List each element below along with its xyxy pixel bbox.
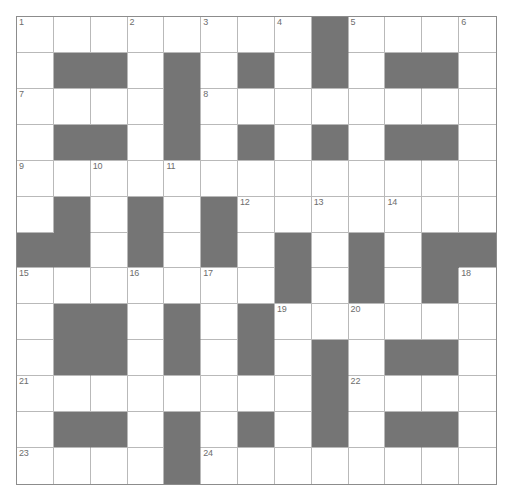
crossword-cell[interactable] [385, 233, 422, 269]
crossword-cell[interactable] [422, 197, 459, 233]
crossword-cell[interactable] [128, 125, 165, 161]
crossword-cell[interactable] [128, 376, 165, 412]
crossword-cell[interactable]: 2 [128, 17, 165, 53]
crossword-cell[interactable] [54, 376, 91, 412]
crossword-cell[interactable] [91, 376, 128, 412]
crossword-cell[interactable] [17, 304, 54, 340]
crossword-cell[interactable]: 15 [17, 268, 54, 304]
crossword-cell[interactable]: 12 [238, 197, 275, 233]
crossword-cell[interactable]: 4 [275, 17, 312, 53]
crossword-cell[interactable] [238, 89, 275, 125]
crossword-cell[interactable] [385, 161, 422, 197]
crossword-cell[interactable] [17, 125, 54, 161]
crossword-cell[interactable] [128, 53, 165, 89]
crossword-cell[interactable] [201, 53, 238, 89]
crossword-cell[interactable] [385, 89, 422, 125]
crossword-cell[interactable] [422, 89, 459, 125]
crossword-cell[interactable] [17, 412, 54, 448]
crossword-cell[interactable] [201, 125, 238, 161]
crossword-cell[interactable] [54, 448, 91, 484]
crossword-cell[interactable] [422, 304, 459, 340]
crossword-grid[interactable]: 123456789101112131415161718192021222324 [16, 16, 497, 485]
crossword-cell[interactable]: 20 [349, 304, 386, 340]
crossword-cell[interactable] [422, 376, 459, 412]
crossword-cell[interactable] [128, 448, 165, 484]
crossword-cell[interactable] [164, 268, 201, 304]
crossword-cell[interactable] [312, 304, 349, 340]
crossword-cell[interactable]: 23 [17, 448, 54, 484]
crossword-cell[interactable] [164, 233, 201, 269]
crossword-cell[interactable]: 13 [312, 197, 349, 233]
crossword-cell[interactable] [275, 89, 312, 125]
crossword-cell[interactable] [238, 376, 275, 412]
crossword-cell[interactable] [91, 268, 128, 304]
crossword-cell[interactable]: 24 [201, 448, 238, 484]
crossword-cell[interactable] [459, 412, 496, 448]
crossword-cell[interactable] [201, 376, 238, 412]
crossword-cell[interactable] [459, 376, 496, 412]
crossword-cell[interactable] [459, 53, 496, 89]
crossword-cell[interactable] [91, 17, 128, 53]
crossword-cell[interactable] [275, 197, 312, 233]
crossword-cell[interactable] [312, 268, 349, 304]
crossword-cell[interactable] [422, 161, 459, 197]
crossword-cell[interactable] [54, 89, 91, 125]
crossword-cell[interactable] [164, 17, 201, 53]
crossword-cell[interactable] [54, 268, 91, 304]
crossword-cell[interactable] [275, 412, 312, 448]
crossword-cell[interactable] [459, 197, 496, 233]
crossword-cell[interactable] [128, 89, 165, 125]
crossword-cell[interactable] [459, 161, 496, 197]
crossword-cell[interactable]: 19 [275, 304, 312, 340]
crossword-cell[interactable] [459, 340, 496, 376]
crossword-cell[interactable] [275, 448, 312, 484]
crossword-cell[interactable]: 11 [164, 161, 201, 197]
crossword-cell[interactable] [349, 412, 386, 448]
crossword-cell[interactable] [275, 53, 312, 89]
crossword-cell[interactable] [91, 197, 128, 233]
crossword-cell[interactable] [312, 448, 349, 484]
crossword-cell[interactable] [349, 161, 386, 197]
crossword-cell[interactable] [385, 304, 422, 340]
crossword-cell[interactable] [128, 304, 165, 340]
crossword-cell[interactable] [164, 197, 201, 233]
crossword-cell[interactable] [459, 304, 496, 340]
crossword-cell[interactable] [349, 125, 386, 161]
crossword-cell[interactable] [312, 89, 349, 125]
crossword-cell[interactable]: 5 [349, 17, 386, 53]
crossword-cell[interactable] [128, 412, 165, 448]
crossword-cell[interactable] [385, 268, 422, 304]
crossword-cell[interactable] [128, 340, 165, 376]
crossword-cell[interactable] [422, 17, 459, 53]
crossword-cell[interactable] [275, 340, 312, 376]
crossword-cell[interactable]: 16 [128, 268, 165, 304]
crossword-cell[interactable] [422, 448, 459, 484]
crossword-cell[interactable] [91, 448, 128, 484]
crossword-cell[interactable]: 21 [17, 376, 54, 412]
crossword-cell[interactable] [91, 233, 128, 269]
crossword-cell[interactable]: 7 [17, 89, 54, 125]
crossword-cell[interactable]: 22 [349, 376, 386, 412]
crossword-cell[interactable] [201, 412, 238, 448]
crossword-cell[interactable]: 17 [201, 268, 238, 304]
crossword-cell[interactable] [238, 268, 275, 304]
crossword-cell[interactable] [54, 17, 91, 53]
crossword-cell[interactable] [91, 89, 128, 125]
crossword-cell[interactable]: 9 [17, 161, 54, 197]
crossword-cell[interactable] [349, 89, 386, 125]
crossword-cell[interactable] [201, 304, 238, 340]
crossword-cell[interactable]: 14 [385, 197, 422, 233]
crossword-cell[interactable] [275, 125, 312, 161]
crossword-cell[interactable] [385, 448, 422, 484]
crossword-cell[interactable] [349, 448, 386, 484]
crossword-cell[interactable] [385, 17, 422, 53]
crossword-cell[interactable] [17, 53, 54, 89]
crossword-cell[interactable]: 10 [91, 161, 128, 197]
crossword-cell[interactable] [238, 448, 275, 484]
crossword-cell[interactable] [275, 161, 312, 197]
crossword-cell[interactable]: 18 [459, 268, 496, 304]
crossword-cell[interactable] [164, 376, 201, 412]
crossword-cell[interactable] [459, 448, 496, 484]
crossword-cell[interactable] [459, 89, 496, 125]
crossword-cell[interactable] [238, 233, 275, 269]
